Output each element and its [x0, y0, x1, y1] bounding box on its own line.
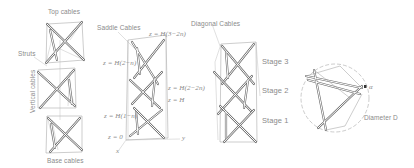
middle-unit	[38, 68, 76, 108]
z-h2-n-label: z = H(2−n)	[103, 59, 136, 67]
base-cables-label: Base cables	[47, 157, 84, 164]
vertical-cables-label: Vertical cables	[29, 70, 36, 113]
struts-label: Struts	[18, 50, 36, 57]
top-view-drawing	[301, 64, 369, 132]
stage-3-label: Stage 3	[262, 57, 289, 66]
bottom-unit	[46, 116, 82, 153]
module-assembly-drawing	[34, 22, 84, 153]
y-axis-label: y	[182, 134, 185, 142]
z-zero-label: z = 0	[108, 133, 123, 141]
x-axis-label: x	[116, 147, 119, 155]
three-stage-tower-drawing	[212, 24, 260, 142]
top-unit	[46, 22, 84, 63]
stage-1-label: Stage 1	[262, 116, 289, 125]
saddle-cables-label: Saddle Cables	[97, 24, 141, 31]
stage-2-label: Stage 2	[262, 86, 289, 95]
diagonal-cables-label: Diagonal Cables	[191, 20, 240, 27]
z-h3-2n-label: z = H(3−2n)	[149, 30, 186, 38]
angle-symbol-label: α	[369, 83, 373, 91]
z-h-label: z = H	[168, 96, 185, 104]
z-h1-n-label: z = H(1−n)	[104, 112, 137, 120]
top-cables-label: Top cables	[48, 8, 80, 15]
diameter-label: Diameter D	[364, 114, 398, 121]
z-h2-2n-label: z = H(2−2n)	[168, 84, 205, 92]
